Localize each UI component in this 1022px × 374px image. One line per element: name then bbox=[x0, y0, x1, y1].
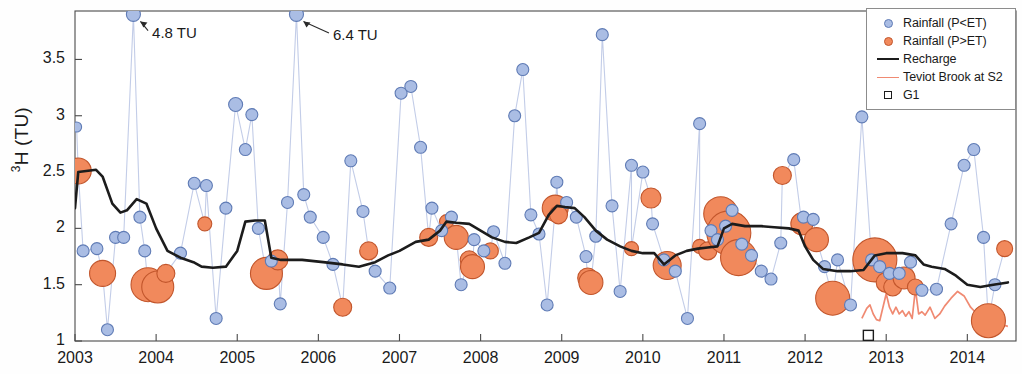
rainfall-bubble-p-lt-et bbox=[755, 265, 767, 277]
rainfall-bubble-p-gt-et bbox=[997, 241, 1013, 257]
x-axis-tick-label: 2011 bbox=[694, 349, 754, 367]
rainfall-bubble-p-lt-et bbox=[126, 7, 140, 21]
rainfall-bubble-p-lt-et bbox=[405, 80, 417, 92]
rainfall-bubble-p-lt-et bbox=[807, 213, 819, 225]
rainfall-bubble-p-lt-et bbox=[426, 202, 438, 214]
rainfall-bubble-p-lt-et bbox=[856, 111, 868, 123]
tritium-timeseries-figure: 3H (TU) Rainfall (P<ET)Rainfall (P>ET)Re… bbox=[0, 0, 1022, 374]
rainfall-p-gt-et-icon bbox=[884, 37, 893, 46]
rainfall-bubble-p-lt-et bbox=[517, 64, 529, 76]
rainfall-bubble-p-gt-et bbox=[157, 264, 175, 282]
g1-square-icon bbox=[884, 91, 892, 99]
rainfall-bubble-p-lt-et bbox=[91, 243, 103, 255]
legend-label: Rainfall (P<ET) bbox=[903, 16, 987, 30]
rainfall-bubble-p-lt-et bbox=[282, 196, 294, 208]
rainfall-bubble-p-lt-et bbox=[541, 299, 553, 311]
legend-key bbox=[873, 91, 903, 99]
rainfall-bubble-p-lt-et bbox=[958, 159, 970, 171]
rainfall-bubble-p-lt-et bbox=[229, 97, 243, 111]
recharge-line-icon bbox=[877, 58, 899, 60]
rainfall-bubble-p-lt-et bbox=[468, 234, 480, 246]
legend-item[interactable]: Teviot Brook at S2 bbox=[873, 68, 1009, 86]
rainfall-bubble-p-lt-et bbox=[134, 211, 146, 223]
rainfall-bubble-p-lt-et bbox=[252, 222, 264, 234]
y-axis-tick-label: 1 bbox=[25, 331, 65, 349]
annotation-label: 4.8 TU bbox=[152, 24, 197, 41]
rainfall-bubble-p-lt-et bbox=[220, 202, 232, 214]
legend-item[interactable]: Recharge bbox=[873, 50, 1009, 68]
rainfall-bubble-p-lt-et bbox=[77, 245, 89, 257]
y-axis-tick-label: 3.5 bbox=[25, 49, 65, 67]
y-axis-tick-label: 2 bbox=[25, 218, 65, 236]
y-axis-tick-label: 3 bbox=[25, 106, 65, 124]
rainfall-bubble-p-gt-et bbox=[334, 298, 352, 316]
x-axis-tick-label: 2014 bbox=[937, 349, 997, 367]
teviot-brook-line-icon bbox=[877, 77, 899, 78]
rainfall-bubble-p-lt-et bbox=[736, 238, 748, 250]
rainfall-bubble-p-lt-et bbox=[478, 245, 490, 257]
x-axis-tick-label: 2007 bbox=[369, 349, 429, 367]
rainfall-bubble-p-lt-et bbox=[726, 204, 738, 216]
rainfall-bubble-p-gt-et bbox=[460, 255, 484, 279]
rainfall-bubble-p-lt-et bbox=[551, 176, 563, 188]
rainfall-bubble-p-lt-et bbox=[246, 109, 258, 121]
rainfall-bubble-p-lt-et bbox=[455, 279, 467, 291]
legend: Rainfall (P<ET)Rainfall (P>ET)RechargeTe… bbox=[866, 8, 1016, 110]
rainfall-bubble-p-lt-et bbox=[509, 110, 521, 122]
rainfall-bubble-p-lt-et bbox=[298, 189, 310, 201]
rainfall-bubble-p-lt-et bbox=[681, 312, 693, 324]
rainfall-bubble-p-lt-et bbox=[596, 29, 608, 41]
rainfall-bubble-p-lt-et bbox=[357, 205, 369, 217]
x-axis-tick-label: 2004 bbox=[126, 349, 186, 367]
rainfall-p-lt-et-icon bbox=[884, 19, 893, 28]
rainfall-bubble-p-lt-et bbox=[384, 282, 396, 294]
rainfall-bubble-p-lt-et bbox=[274, 298, 286, 310]
rainfall-bubble-p-lt-et bbox=[845, 299, 857, 311]
rainfall-bubble-p-gt-et bbox=[360, 242, 378, 260]
legend-item[interactable]: Rainfall (P>ET) bbox=[873, 32, 1009, 50]
rainfall-bubble-p-lt-et bbox=[139, 245, 151, 257]
x-axis-tick-label: 2013 bbox=[856, 349, 916, 367]
rainfall-bubble-p-lt-et bbox=[968, 144, 980, 156]
rainfall-bubble-p-lt-et bbox=[289, 7, 303, 21]
legend-item[interactable]: G1 bbox=[873, 86, 1009, 104]
rainfall-bubble-p-lt-et bbox=[72, 122, 82, 132]
rainfall-bubble-p-lt-et bbox=[304, 211, 316, 223]
rainfall-bubble-p-lt-et bbox=[669, 265, 681, 277]
rainfall-bubble-p-gt-et bbox=[816, 281, 850, 315]
rainfall-bubble-p-lt-et bbox=[905, 256, 917, 268]
rainfall-bubble-p-lt-et bbox=[945, 218, 957, 230]
rainfall-bubble-p-lt-et bbox=[788, 154, 800, 166]
legend-label: Recharge bbox=[903, 52, 956, 66]
rainfall-bubble-p-lt-et bbox=[210, 312, 222, 324]
rainfall-bubble-p-lt-et bbox=[415, 141, 427, 153]
x-axis-tick-label: 2006 bbox=[288, 349, 348, 367]
rainfall-bubble-p-lt-et bbox=[614, 285, 626, 297]
rainfall-bubble-p-gt-et bbox=[971, 304, 1005, 338]
x-axis-tick-label: 2009 bbox=[532, 349, 592, 367]
rainfall-bubble-p-lt-et bbox=[647, 218, 659, 230]
x-axis-tick-label: 2005 bbox=[207, 349, 267, 367]
legend-item[interactable]: Rainfall (P<ET) bbox=[873, 14, 1009, 32]
y-axis-tick-label: 2.5 bbox=[25, 162, 65, 180]
rainfall-bubble-p-lt-et bbox=[239, 144, 251, 156]
rainfall-bubble-p-lt-et bbox=[625, 159, 637, 171]
legend-key bbox=[873, 58, 903, 60]
rainfall-bubble-p-lt-et bbox=[775, 237, 787, 249]
rainfall-bubble-p-lt-et bbox=[637, 166, 649, 178]
x-axis-tick-label: 2008 bbox=[451, 349, 511, 367]
legend-key bbox=[873, 77, 903, 78]
rainfall-bubble-p-gt-et bbox=[641, 188, 661, 208]
rainfall-bubble-p-lt-et bbox=[118, 231, 130, 243]
legend-label: Rainfall (P>ET) bbox=[903, 34, 987, 48]
rainfall-bubble-p-lt-et bbox=[317, 231, 329, 243]
legend-label: G1 bbox=[903, 88, 919, 102]
rainfall-bubble-p-gt-et bbox=[420, 228, 438, 246]
rainfall-bubble-p-gt-et bbox=[773, 166, 791, 184]
rainfall-bubble-p-gt-et bbox=[579, 270, 603, 294]
rainfall-bubble-p-lt-et bbox=[746, 249, 758, 261]
x-axis-tick-label: 2003 bbox=[45, 349, 105, 367]
rainfall-bubble-p-lt-et bbox=[188, 177, 200, 189]
legend-label: Teviot Brook at S2 bbox=[903, 70, 1003, 84]
annotation-label: 6.4 TU bbox=[333, 26, 378, 43]
